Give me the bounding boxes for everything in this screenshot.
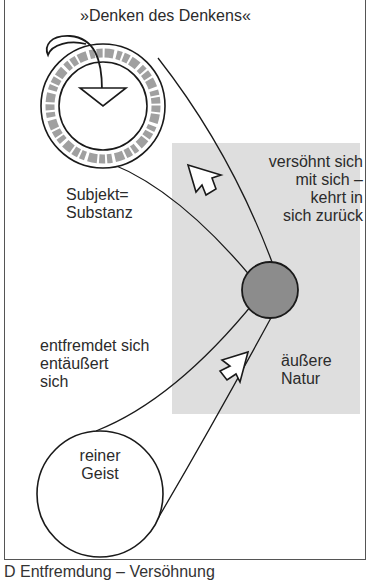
title-label: »Denken des Denkens« <box>80 7 251 25</box>
reconciles-label-line: sich zurück <box>213 207 363 225</box>
spirit-label-line: Geist <box>60 465 140 483</box>
alienates-label-line: sich <box>40 373 149 391</box>
alienates-label-line: entfremdet sich <box>40 337 149 355</box>
nature-label: äußere Natur <box>281 352 332 388</box>
nature-label-line: äußere <box>281 352 332 370</box>
reconciles-label: versöhnt sich mit sich – kehrt in sich z… <box>213 153 363 225</box>
spirit-label: reiner Geist <box>60 447 140 483</box>
figure-caption: D Entfremdung – Versöhnung <box>4 563 215 581</box>
spirit-label-line: reiner <box>60 447 140 465</box>
reconciles-label-line: versöhnt sich <box>213 153 363 171</box>
subject-label: Subjekt= Substanz <box>66 186 133 222</box>
nature-circle <box>242 262 298 318</box>
reconciles-label-line: kehrt in <box>213 189 363 207</box>
subject-label-line: Substanz <box>66 204 133 222</box>
subject-label-line: Subjekt= <box>66 186 133 204</box>
alienates-label: entfremdet sich entäußert sich <box>40 337 149 391</box>
alienates-label-line: entäußert <box>40 355 149 373</box>
nature-label-line: Natur <box>281 370 332 388</box>
reconciles-label-line: mit sich – <box>213 171 363 189</box>
